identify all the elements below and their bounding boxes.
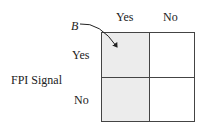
callout-arrow-icon (0, 0, 200, 130)
